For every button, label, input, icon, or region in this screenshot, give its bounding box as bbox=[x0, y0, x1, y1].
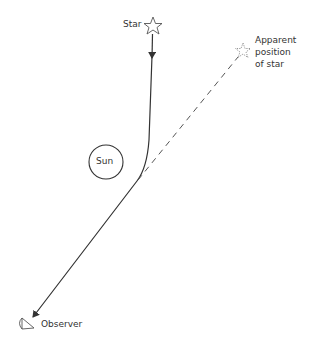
apparent-label-1: Apparent bbox=[255, 35, 296, 46]
star-icon bbox=[144, 17, 162, 34]
observer-label: Observer bbox=[41, 319, 82, 330]
light-path-upper bbox=[152, 34, 153, 58]
star-label: Star bbox=[123, 19, 141, 30]
apparent-line bbox=[138, 57, 238, 180]
apparent-label-2: position bbox=[255, 47, 291, 58]
apparent-label-3: of star bbox=[255, 59, 284, 70]
apparent-star-icon bbox=[236, 43, 251, 58]
light-path bbox=[33, 56, 152, 317]
sun-label: Sun bbox=[96, 156, 113, 167]
observer-eye-icon bbox=[20, 318, 35, 329]
